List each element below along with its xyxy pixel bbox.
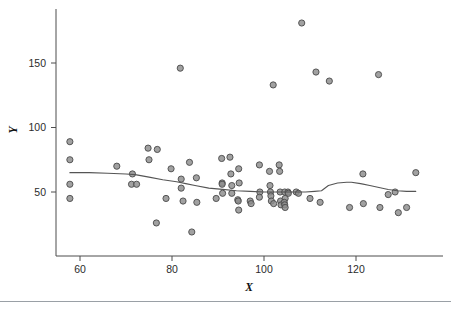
data-point <box>270 82 276 88</box>
scatter-plot-figure: 6080100120 50100150 X Y <box>0 0 451 309</box>
data-point <box>413 170 419 176</box>
data-point <box>213 195 219 201</box>
data-point <box>146 157 152 163</box>
data-point <box>219 181 225 187</box>
data-point <box>236 207 242 213</box>
data-point <box>153 220 159 226</box>
y-tick-label: 50 <box>34 186 46 198</box>
data-point <box>248 201 254 207</box>
y-tick-label: 150 <box>28 57 46 69</box>
x-tick-label: 100 <box>255 263 273 275</box>
data-point <box>228 171 234 177</box>
data-point <box>154 146 160 152</box>
data-point <box>133 181 139 187</box>
data-point <box>178 185 184 191</box>
y-axis-title: Y <box>7 126 19 134</box>
data-point <box>177 65 183 71</box>
data-point <box>377 204 383 210</box>
data-point <box>395 210 401 216</box>
data-point <box>67 195 73 201</box>
data-point <box>229 182 235 188</box>
data-point <box>168 166 174 172</box>
data-point <box>163 195 169 201</box>
data-point <box>267 182 273 188</box>
data-point <box>256 162 262 168</box>
data-point <box>307 195 313 201</box>
data-point <box>227 154 233 160</box>
data-point <box>285 190 291 196</box>
plot-background <box>0 0 451 309</box>
data-point <box>375 72 381 78</box>
data-point <box>180 198 186 204</box>
data-point <box>277 168 283 174</box>
data-point <box>276 162 282 168</box>
data-point <box>271 201 277 207</box>
data-point <box>256 194 262 200</box>
data-point <box>295 190 301 196</box>
data-point <box>385 191 391 197</box>
data-point <box>193 175 199 181</box>
data-point <box>67 139 73 145</box>
data-point <box>236 180 242 186</box>
data-point <box>346 204 352 210</box>
x-axis-title: X <box>244 281 253 293</box>
data-point <box>326 78 332 84</box>
y-tick-label: 100 <box>28 121 46 133</box>
data-point <box>114 163 120 169</box>
data-point <box>266 168 272 174</box>
data-point <box>145 145 151 151</box>
x-tick-label: 120 <box>347 263 365 275</box>
data-point <box>282 204 288 210</box>
data-point <box>360 171 366 177</box>
data-point <box>186 159 192 165</box>
data-point <box>313 69 319 75</box>
data-point <box>235 198 241 204</box>
data-point <box>67 157 73 163</box>
data-point <box>220 190 226 196</box>
data-point <box>189 229 195 235</box>
data-point <box>229 190 235 196</box>
data-point <box>219 155 225 161</box>
data-point <box>236 166 242 172</box>
data-point <box>194 199 200 205</box>
data-point <box>360 201 366 207</box>
x-tick-label: 60 <box>74 263 86 275</box>
data-point <box>67 181 73 187</box>
data-point <box>299 20 305 26</box>
data-point <box>178 176 184 182</box>
x-tick-label: 80 <box>166 263 178 275</box>
data-point <box>404 204 410 210</box>
data-point <box>317 199 323 205</box>
